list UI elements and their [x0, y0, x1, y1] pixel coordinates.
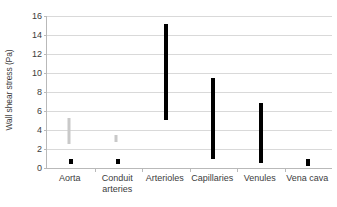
y-tick-label-8: 8	[37, 87, 42, 97]
y-tick-label-16: 16	[32, 11, 42, 21]
range-bar-venules-primary	[259, 103, 263, 163]
gridline-2	[47, 149, 332, 150]
y-axis-title-text: Wall shear stress (Pa)	[4, 49, 14, 130]
x-category-label-line1: Arterioles	[146, 173, 184, 183]
x-category-label-venules: Venules	[244, 173, 276, 184]
x-axis-labels: Aorta Conduit arteries Arterioles Capill…	[46, 173, 331, 207]
range-bar-conduit-arteries-primary	[116, 159, 120, 165]
x-category-label-vena-cava: Vena cava	[286, 173, 328, 184]
range-bar-capillaries-primary	[211, 78, 215, 159]
wall-shear-stress-chart: Wall shear stress (Pa) 0 2 4 6 8 10 12 1…	[0, 0, 337, 207]
x-category-label-arterioles: Arterioles	[146, 173, 184, 184]
y-tickmark-14	[44, 35, 47, 36]
range-bar-conduit-arteries-secondary	[115, 135, 118, 143]
y-tickmark-12	[44, 54, 47, 55]
x-category-label-conduit-arteries: Conduit arteries	[102, 173, 133, 195]
range-bar-arterioles-primary	[164, 24, 168, 121]
gridline-14	[47, 35, 332, 36]
gridline-10	[47, 73, 332, 74]
x-tickmark-4	[237, 168, 238, 172]
x-category-label-line1: Venules	[244, 173, 276, 183]
y-tickmark-10	[44, 73, 47, 74]
x-category-label-line1: Aorta	[59, 173, 81, 183]
y-tick-label-2: 2	[37, 144, 42, 154]
range-bar-aorta-primary	[69, 159, 73, 165]
x-category-label-line1: Vena cava	[286, 173, 328, 183]
gridline-12	[47, 54, 332, 55]
plot-area	[46, 16, 332, 169]
x-tickmark-3	[190, 168, 191, 172]
y-tick-label-14: 14	[32, 30, 42, 40]
range-bar-aorta-secondary	[67, 118, 70, 145]
y-tickmark-4	[44, 130, 47, 131]
y-tick-label-4: 4	[37, 125, 42, 135]
gridline-16	[47, 16, 332, 17]
gridline-6	[47, 111, 332, 112]
y-tickmark-16	[44, 16, 47, 17]
y-tickmark-0	[44, 168, 47, 169]
y-tick-label-0: 0	[37, 163, 42, 173]
gridline-4	[47, 130, 332, 131]
x-tickmark-2	[142, 168, 143, 172]
x-tickmark-5	[285, 168, 286, 172]
x-category-label-line1: Conduit	[102, 173, 133, 183]
x-category-label-line1: Capillaries	[191, 173, 233, 183]
y-tickmark-6	[44, 111, 47, 112]
x-category-label-capillaries: Capillaries	[191, 173, 233, 184]
gridline-8	[47, 92, 332, 93]
y-tick-label-12: 12	[32, 49, 42, 59]
y-tick-label-10: 10	[32, 68, 42, 78]
x-category-label-aorta: Aorta	[59, 173, 81, 184]
x-tickmark-1	[95, 168, 96, 172]
y-axis-title: Wall shear stress (Pa)	[0, 0, 18, 180]
y-axis-tick-labels: 0 2 4 6 8 10 12 14 16	[18, 0, 46, 180]
y-tick-label-6: 6	[37, 106, 42, 116]
y-tickmark-8	[44, 92, 47, 93]
x-category-label-line2: arteries	[102, 184, 133, 195]
range-bar-vena-cava-primary	[306, 159, 310, 167]
y-tickmark-2	[44, 149, 47, 150]
